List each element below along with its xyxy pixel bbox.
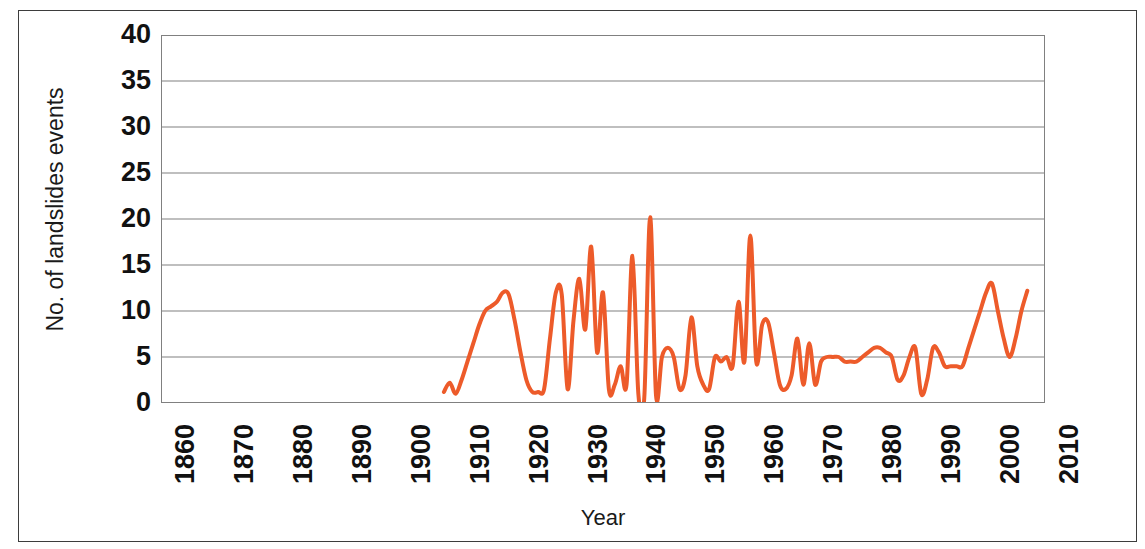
x-tick-label: 1940	[643, 424, 670, 484]
x-tick-label: 1970	[820, 424, 847, 484]
x-tick-label: 1950	[702, 424, 729, 484]
x-tick-label: 2000	[997, 424, 1024, 484]
x-tick-label: 1920	[526, 424, 553, 484]
x-tick-label: 1960	[761, 424, 788, 484]
x-tick-label: 1990	[938, 424, 965, 484]
x-axis-title: Year	[161, 505, 1045, 531]
x-tick-label: 1860	[172, 424, 199, 484]
x-axis-tick-labels: 1860187018801890190019101920193019401950…	[0, 0, 1145, 549]
x-tick-label: 1930	[585, 424, 612, 484]
x-tick-label: 1890	[349, 424, 376, 484]
x-tick-label: 1980	[879, 424, 906, 484]
x-tick-label: 1910	[467, 424, 494, 484]
x-tick-label: 1900	[408, 424, 435, 484]
x-tick-label: 1870	[231, 424, 258, 484]
chart-figure: No. of landslides events 403530252015105…	[0, 0, 1145, 549]
x-tick-label: 2010	[1056, 424, 1083, 484]
x-tick-label: 1880	[290, 424, 317, 484]
